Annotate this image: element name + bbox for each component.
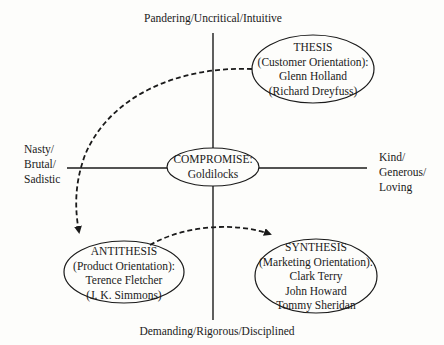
synthesis-node: SYNTHESIS (Marketing Orientation): Clark… bbox=[255, 240, 377, 313]
axis-label-right-line: Loving bbox=[379, 180, 426, 195]
axis-label-right-line: Generous/ bbox=[379, 165, 426, 180]
antithesis-node: ANTITHESIS (Product Orientation): Terenc… bbox=[64, 244, 184, 302]
thesis-subtitle: (Customer Orientation): bbox=[252, 55, 374, 70]
antithesis-title: ANTITHESIS bbox=[64, 244, 184, 259]
axis-label-left-line: Nasty/ bbox=[24, 142, 60, 157]
axis-label-bottom: Demanding/Rigorous/Disciplined bbox=[0, 324, 439, 339]
synthesis-subtitle: (Marketing Orientation): bbox=[255, 255, 377, 270]
thesis-line: Glenn Holland bbox=[252, 69, 374, 84]
compromise-line: Goldilocks bbox=[167, 167, 259, 182]
synthesis-line: Clark Terry bbox=[255, 269, 377, 284]
axis-label-left: Nasty/ Brutal/ Sadistic bbox=[24, 142, 60, 187]
antithesis-line: (J. K. Simmons) bbox=[64, 288, 184, 303]
thesis-node: THESIS (Customer Orientation): Glenn Hol… bbox=[252, 40, 374, 98]
axis-label-right: Kind/ Generous/ Loving bbox=[379, 150, 426, 195]
compromise-node: COMPROMISE: Goldilocks bbox=[167, 152, 259, 181]
dialectic-diagram: Pandering/Uncritical/Intuitive Demanding… bbox=[0, 0, 444, 345]
thesis-line: (Richard Dreyfuss) bbox=[252, 84, 374, 99]
synthesis-title: SYNTHESIS bbox=[255, 240, 377, 255]
axis-label-right-line: Kind/ bbox=[379, 150, 426, 165]
axis-label-top: Pandering/Uncritical/Intuitive bbox=[0, 11, 435, 26]
axis-label-left-line: Sadistic bbox=[24, 172, 60, 187]
synthesis-line: Tommy Sheridan bbox=[255, 298, 377, 313]
antithesis-subtitle: (Product Orientation): bbox=[64, 259, 184, 274]
compromise-title: COMPROMISE: bbox=[167, 152, 259, 167]
thesis-title: THESIS bbox=[252, 40, 374, 55]
antithesis-line: Terence Fletcher bbox=[64, 273, 184, 288]
axis-label-left-line: Brutal/ bbox=[24, 157, 60, 172]
arrow-antithesis-to-synthesis bbox=[150, 227, 270, 245]
synthesis-line: John Howard bbox=[255, 284, 377, 299]
